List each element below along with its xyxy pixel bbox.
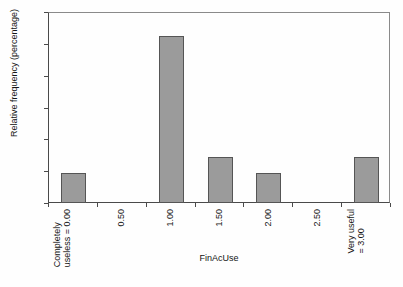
y-axis-title: Relative frequency (percentage) (9, 0, 19, 173)
bar (208, 157, 233, 203)
bar (354, 157, 379, 203)
y-tick-mark (44, 171, 48, 172)
x-tick-label-line: 1.00 (165, 209, 175, 227)
bar (61, 173, 86, 203)
x-tick-label-line: 2.00 (263, 209, 273, 227)
y-tick-mark (44, 108, 48, 109)
y-tick-mark (44, 76, 48, 77)
x-tick-label-line: = 3.00 (356, 209, 366, 254)
x-tick-mark (146, 203, 147, 207)
bars-layer (49, 12, 390, 203)
y-tick-mark (44, 12, 48, 13)
x-tick-label-line: 0.50 (116, 209, 126, 227)
x-tick-mark (341, 203, 342, 207)
x-tick-mark (390, 203, 391, 207)
y-tick-mark (44, 44, 48, 45)
y-tick-mark (44, 139, 48, 140)
x-tick-mark (195, 203, 196, 207)
bar-chart: Relative frequency (percentage) 01020304… (0, 0, 403, 287)
x-tick-label-line: 2.50 (312, 209, 322, 227)
x-tick-mark (292, 203, 293, 207)
bar (159, 36, 184, 203)
x-tick-mark (97, 203, 98, 207)
x-axis-title: FinAcUse (48, 253, 390, 263)
bar (256, 173, 281, 203)
x-tick-label-line: 1.50 (214, 209, 224, 227)
x-tick-mark (243, 203, 244, 207)
x-tick-label-line: Very useful (346, 209, 356, 254)
x-tick-mark (48, 203, 49, 207)
